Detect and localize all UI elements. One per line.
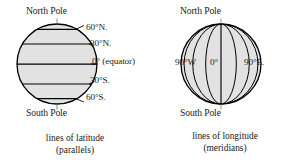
label-north-pole-latitude: North Pole xyxy=(26,6,67,16)
leader-60n xyxy=(76,26,85,30)
label-longitude-90w: 90°W xyxy=(175,57,196,67)
label-south-pole-latitude: South Pole xyxy=(26,108,67,118)
globe-diagram-figure: North Pole South Pole 60°N. 30°N. 0° (eq… xyxy=(0,0,301,168)
caption-latitude-line1: lines of latitude xyxy=(0,132,150,144)
label-latitude-30n: 30°N. xyxy=(90,38,111,48)
label-latitude-60n: 60°N. xyxy=(86,22,107,32)
label-north-pole-longitude: North Pole xyxy=(180,6,221,16)
longitude-panel: North Pole South Pole 90°W 0° 90°E. line… xyxy=(150,0,300,168)
caption-longitude-line2: (meridians) xyxy=(150,142,300,154)
caption-latitude: lines of latitude (parallels) xyxy=(0,132,150,156)
leader-60s xyxy=(76,99,85,102)
label-latitude-30s: 30°S. xyxy=(90,75,110,85)
label-longitude-prime: 0° xyxy=(210,57,218,67)
caption-longitude-line1: lines of longitude xyxy=(150,130,300,142)
caption-latitude-line2: (parallels) xyxy=(0,144,150,156)
label-latitude-60s: 60°S. xyxy=(86,92,106,102)
caption-longitude: lines of longitude (meridians) xyxy=(150,130,300,154)
latitude-panel: North Pole South Pole 60°N. 30°N. 0° (eq… xyxy=(0,0,150,168)
label-latitude-equator: 0° (equator) xyxy=(92,56,135,66)
label-longitude-90e: 90°E. xyxy=(244,57,264,67)
label-south-pole-longitude: South Pole xyxy=(180,108,221,118)
